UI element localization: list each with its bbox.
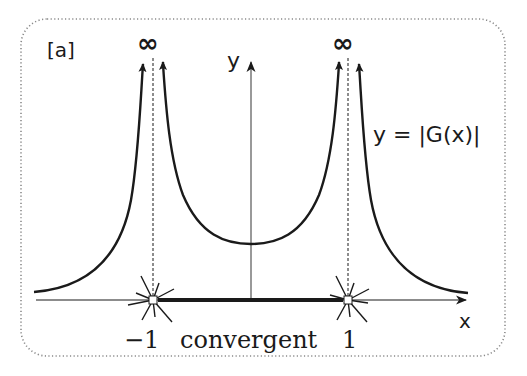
diagram-graphics: [0, 0, 527, 376]
x-axis-label: x: [459, 311, 471, 331]
panel-label: [a]: [47, 40, 75, 60]
curve-right-tail: [359, 64, 468, 293]
curve-label: y = |G(x)|: [373, 124, 481, 146]
diagram: [a] ∞ ∞ y x y = |G(x)| −1 convergent 1: [0, 0, 527, 376]
curve-left-tail: [34, 64, 143, 292]
tick-label-minus-one: −1: [124, 328, 159, 352]
infinity-label-left: ∞: [137, 30, 159, 56]
dotted-frame: [21, 19, 505, 356]
tick-label-one: 1: [342, 328, 357, 352]
infinity-label-right: ∞: [332, 30, 354, 56]
interval-label-convergent: convergent: [180, 328, 317, 352]
y-axis-label: y: [227, 50, 240, 72]
